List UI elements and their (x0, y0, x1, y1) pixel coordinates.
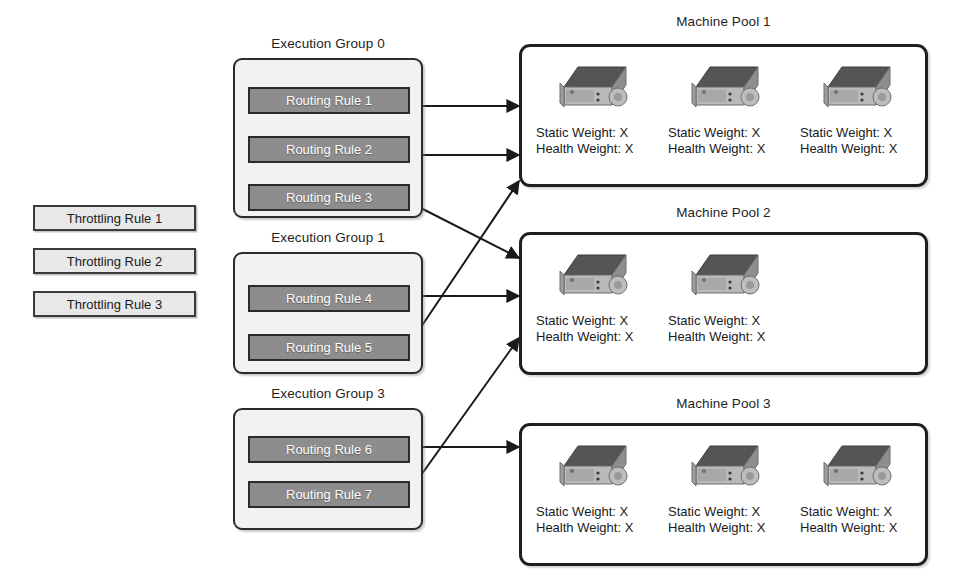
server-icon (816, 440, 902, 502)
diagram-canvas: Throttling Rule 1 Throttling Rule 2 Thro… (0, 0, 954, 582)
routing-rule-1[interactable]: Routing Rule 1 (248, 87, 410, 114)
health-weight: Health Weight: X (668, 329, 786, 345)
machine-weights: Static Weight: X Health Weight: X (536, 504, 654, 536)
routing-rule-label: Routing Rule 1 (286, 93, 372, 108)
server-icon (552, 249, 638, 311)
machine-pool-3[interactable]: Static Weight: X Health Weight: X Static… (519, 423, 928, 566)
routing-rule-7[interactable]: Routing Rule 7 (248, 481, 410, 508)
health-weight: Health Weight: X (800, 520, 918, 536)
server-icon (684, 249, 770, 311)
health-weight: Health Weight: X (668, 520, 786, 536)
connector-rule3-pool2 (409, 202, 519, 258)
connector-rule5-pool1 (409, 181, 519, 345)
routing-rule-label: Routing Rule 4 (286, 291, 372, 306)
server-icon (684, 61, 770, 123)
routing-rule-label: Routing Rule 3 (286, 190, 372, 205)
server-icon (816, 61, 902, 123)
health-weight: Health Weight: X (536, 141, 654, 157)
static-weight: Static Weight: X (800, 125, 918, 141)
health-weight: Health Weight: X (800, 141, 918, 157)
static-weight: Static Weight: X (668, 125, 786, 141)
throttling-rule-label: Throttling Rule 3 (67, 297, 162, 312)
machine-weights: Static Weight: X Health Weight: X (668, 313, 786, 345)
machine-pool-2[interactable]: Static Weight: X Health Weight: X Static… (519, 232, 928, 375)
routing-rule-label: Routing Rule 5 (286, 340, 372, 355)
static-weight: Static Weight: X (668, 313, 786, 329)
machine-weights: Static Weight: X Health Weight: X (800, 125, 918, 157)
execution-group-1[interactable]: Routing Rule 4 Routing Rule 5 (233, 252, 423, 374)
machine-pool-3-machine-3[interactable]: Static Weight: X Health Weight: X (800, 440, 918, 536)
routing-rule-4[interactable]: Routing Rule 4 (248, 285, 410, 312)
static-weight: Static Weight: X (536, 504, 654, 520)
routing-rule-label: Routing Rule 2 (286, 142, 372, 157)
routing-rule-5[interactable]: Routing Rule 5 (248, 334, 410, 361)
health-weight: Health Weight: X (668, 141, 786, 157)
routing-rule-3[interactable]: Routing Rule 3 (248, 184, 410, 211)
machine-pool-3-caption: Machine Pool 3 (519, 396, 928, 411)
execution-group-0[interactable]: Routing Rule 1 Routing Rule 2 Routing Ru… (233, 58, 423, 218)
health-weight: Health Weight: X (536, 329, 654, 345)
machine-pool-1-caption: Machine Pool 1 (519, 14, 928, 29)
server-icon (552, 61, 638, 123)
throttling-rule-1[interactable]: Throttling Rule 1 (33, 205, 196, 231)
static-weight: Static Weight: X (536, 313, 654, 329)
machine-weights: Static Weight: X Health Weight: X (536, 125, 654, 157)
routing-rule-6[interactable]: Routing Rule 6 (248, 436, 410, 463)
static-weight: Static Weight: X (800, 504, 918, 520)
throttling-rule-label: Throttling Rule 2 (67, 254, 162, 269)
machine-pool-2-machine-1[interactable]: Static Weight: X Health Weight: X (536, 249, 654, 345)
machine-pool-3-machine-1[interactable]: Static Weight: X Health Weight: X (536, 440, 654, 536)
routing-rule-2[interactable]: Routing Rule 2 (248, 136, 410, 163)
routing-rule-label: Routing Rule 7 (286, 487, 372, 502)
machine-weights: Static Weight: X Health Weight: X (668, 125, 786, 157)
throttling-rule-label: Throttling Rule 1 (67, 211, 162, 226)
machine-weights: Static Weight: X Health Weight: X (536, 313, 654, 345)
throttling-rule-2[interactable]: Throttling Rule 2 (33, 248, 196, 274)
execution-group-3-caption: Execution Group 3 (233, 386, 423, 401)
machine-pool-2-caption: Machine Pool 2 (519, 205, 928, 220)
machine-pool-2-machine-2[interactable]: Static Weight: X Health Weight: X (668, 249, 786, 345)
static-weight: Static Weight: X (536, 125, 654, 141)
machine-pool-1-machine-3[interactable]: Static Weight: X Health Weight: X (800, 61, 918, 157)
connector-rule7-pool2 (409, 338, 519, 492)
execution-group-1-caption: Execution Group 1 (233, 230, 423, 245)
machine-pool-3-machine-2[interactable]: Static Weight: X Health Weight: X (668, 440, 786, 536)
machine-pool-1[interactable]: Static Weight: X Health Weight: X Static… (519, 44, 928, 187)
server-icon (684, 440, 770, 502)
throttling-rule-3[interactable]: Throttling Rule 3 (33, 291, 196, 317)
execution-group-3[interactable]: Routing Rule 6 Routing Rule 7 (233, 408, 423, 530)
machine-pool-1-machine-1[interactable]: Static Weight: X Health Weight: X (536, 61, 654, 157)
machine-weights: Static Weight: X Health Weight: X (668, 504, 786, 536)
execution-group-0-caption: Execution Group 0 (233, 36, 423, 51)
machine-pool-1-machine-2[interactable]: Static Weight: X Health Weight: X (668, 61, 786, 157)
health-weight: Health Weight: X (536, 520, 654, 536)
static-weight: Static Weight: X (668, 504, 786, 520)
machine-weights: Static Weight: X Health Weight: X (800, 504, 918, 536)
server-icon (552, 440, 638, 502)
routing-rule-label: Routing Rule 6 (286, 442, 372, 457)
